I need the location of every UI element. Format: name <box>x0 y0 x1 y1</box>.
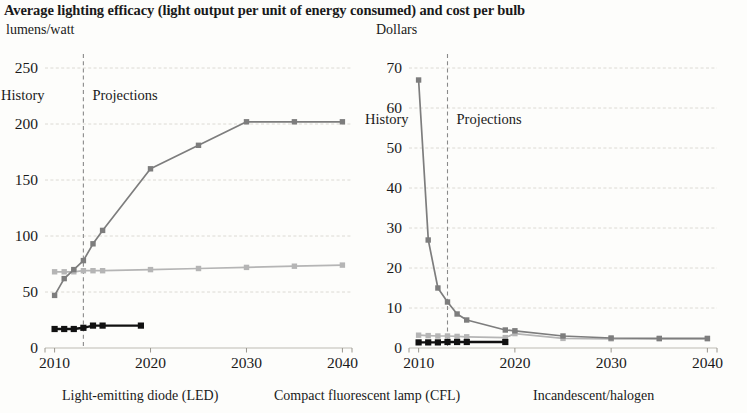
data-point-marker <box>445 299 450 304</box>
data-point-marker <box>416 339 422 345</box>
data-point-marker <box>71 326 77 332</box>
data-point-marker <box>502 339 508 345</box>
data-point-marker <box>435 339 441 345</box>
data-point-marker <box>444 339 450 345</box>
data-point-marker <box>62 276 67 281</box>
y-axis-tick-label: 100 <box>0 228 38 244</box>
data-point-marker <box>416 77 421 82</box>
data-point-marker <box>196 266 201 271</box>
y-axis-tick-label: 150 <box>0 172 38 188</box>
data-point-marker <box>657 336 662 341</box>
legend-item-cfl: Compact fluorescent lamp (CFL) <box>274 388 460 404</box>
data-point-marker <box>512 328 517 333</box>
y-axis-tick-label: 30 <box>362 220 402 236</box>
data-point-marker <box>292 264 297 269</box>
y-axis-tick-label: 0 <box>0 340 38 356</box>
data-point-marker <box>608 335 613 340</box>
data-point-marker <box>454 339 460 345</box>
y-axis-tick-label: 250 <box>0 60 38 76</box>
data-point-marker <box>340 119 345 124</box>
x-axis-tick-label: 2040 <box>314 355 370 371</box>
data-point-marker <box>52 326 58 332</box>
data-point-marker <box>148 166 153 171</box>
data-point-marker <box>435 285 440 290</box>
data-point-marker <box>416 333 421 338</box>
data-point-marker <box>244 119 249 124</box>
data-point-marker <box>81 258 86 263</box>
y-axis-tick-label: 50 <box>362 140 402 156</box>
x-axis-tick-label: 2020 <box>123 355 179 371</box>
y-axis-tick-label: 0 <box>362 340 402 356</box>
y-axis-tick-label: 200 <box>0 116 38 132</box>
data-point-marker <box>464 334 469 339</box>
x-axis-tick-label: 2010 <box>391 355 447 371</box>
data-point-marker <box>71 267 76 272</box>
efficacy-chart-panel: History Projections 05010015020025020102… <box>0 0 373 413</box>
data-point-marker <box>196 143 201 148</box>
data-point-marker <box>138 323 144 329</box>
data-point-marker <box>100 228 105 233</box>
cost-chart-panel: History Projections 01020304050607020102… <box>373 0 747 413</box>
data-point-marker <box>61 326 67 332</box>
data-point-marker <box>464 339 470 345</box>
data-point-marker <box>90 241 95 246</box>
data-point-marker <box>244 265 249 270</box>
data-point-marker <box>90 268 95 273</box>
data-point-marker <box>454 311 459 316</box>
x-axis-tick-label: 2040 <box>679 355 735 371</box>
legend-item-incandescent: Incandescent/halogen <box>533 388 654 404</box>
cost-plot-area <box>373 0 747 413</box>
data-point-marker <box>503 327 508 332</box>
x-axis-tick-label: 2020 <box>487 355 543 371</box>
data-point-marker <box>426 237 431 242</box>
data-point-marker <box>52 269 57 274</box>
data-point-marker <box>292 119 297 124</box>
legend-item-led: Light-emitting diode (LED) <box>62 388 218 404</box>
data-point-marker <box>426 333 431 338</box>
data-point-marker <box>464 317 469 322</box>
y-axis-tick-label: 40 <box>362 180 402 196</box>
y-axis-tick-label: 50 <box>0 284 38 300</box>
data-point-marker <box>81 268 86 273</box>
history-label-left: History <box>1 88 45 103</box>
x-axis-tick-label: 2030 <box>583 355 639 371</box>
data-point-marker <box>560 333 565 338</box>
data-point-marker <box>340 262 345 267</box>
data-point-marker <box>52 293 57 298</box>
y-axis-tick-label: 10 <box>362 300 402 316</box>
data-point-marker <box>435 333 440 338</box>
data-point-marker <box>148 267 153 272</box>
projections-label-left: Projections <box>92 88 157 103</box>
efficacy-plot-area <box>0 0 373 413</box>
data-point-marker <box>62 269 67 274</box>
data-point-marker <box>100 323 106 329</box>
data-point-marker <box>705 336 710 341</box>
projections-label-right: Projections <box>457 112 522 127</box>
data-point-marker <box>90 323 96 329</box>
chart-figure: Average lighting efficacy (light output … <box>0 0 747 413</box>
y-axis-tick-label: 60 <box>362 100 402 116</box>
data-point-marker <box>425 339 431 345</box>
series-line <box>55 326 141 329</box>
data-point-marker <box>445 333 450 338</box>
data-point-marker <box>80 325 86 331</box>
y-axis-tick-label: 70 <box>362 60 402 76</box>
data-point-marker <box>454 334 459 339</box>
x-axis-tick-label: 2030 <box>218 355 274 371</box>
y-axis-tick-label: 20 <box>362 260 402 276</box>
data-point-marker <box>100 268 105 273</box>
x-axis-tick-label: 2010 <box>27 355 83 371</box>
